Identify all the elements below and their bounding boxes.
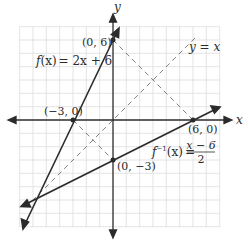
- f-label-rhs: = 2x + 6: [59, 54, 113, 68]
- finv-denominator: 2: [198, 153, 205, 166]
- y-axis-label: y: [113, 0, 121, 14]
- x-axis-label: x: [236, 113, 243, 127]
- finv-numerator: x − 6: [186, 139, 215, 152]
- point-0-neg3: [111, 158, 116, 163]
- finv-label-arg: (x): [167, 145, 183, 159]
- f-label: f(x)= 2x + 6: [35, 54, 112, 68]
- finv-label-sup: −1: [156, 145, 166, 153]
- point-6-0: [191, 118, 196, 123]
- point-label-neg3-0: (−3, 0): [44, 105, 83, 118]
- graph-canvas: y x (0, 6) (−3, 0) (6, 0) (0, −3) y = x …: [0, 0, 248, 242]
- point-neg3-0: [71, 118, 76, 123]
- f-label-arg: (x): [40, 54, 56, 68]
- point-label-0-6: (0, 6): [82, 36, 112, 49]
- identity-label: y = x: [188, 40, 220, 54]
- point-label-0-neg3: (0, −3): [117, 160, 156, 173]
- point-label-6-0: (6, 0): [188, 123, 218, 136]
